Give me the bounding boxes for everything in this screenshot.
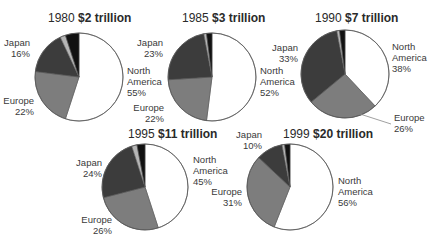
pie-title: 1990 $7 trillion <box>315 11 398 25</box>
label-europe: Europe22% <box>133 102 164 124</box>
label-europe: Europe26% <box>394 112 425 134</box>
label-north-america: NorthAmerica52% <box>260 65 296 98</box>
pie-title: 1985 $3 trillion <box>182 11 265 25</box>
pie-title: 1999 $20 trillion <box>283 127 373 141</box>
pie-1985: 1985 $3 trillionNorthAmerica52%Europe22%… <box>133 11 295 124</box>
label-japan: Japan16% <box>4 37 30 59</box>
label-japan: Japan24% <box>76 157 102 179</box>
label-north-america: NorthAmerica55% <box>127 65 163 98</box>
label-europe: Europe31% <box>211 186 242 208</box>
pie-1995: 1995 $11 trillionNorthAmerica45%Europe26… <box>76 127 228 236</box>
label-europe: Europe22% <box>3 95 34 117</box>
pie-slice-north-america <box>206 33 256 121</box>
pie-title: 1995 $11 trillion <box>128 127 217 141</box>
pie-title: 1980 $2 trillion <box>48 11 131 25</box>
label-japan: Japan10% <box>236 129 262 151</box>
label-japan: Japan23% <box>137 37 163 59</box>
label-north-america: NorthAmerica45% <box>193 154 229 187</box>
pie-slice-europe <box>168 77 212 121</box>
label-europe: Europe26% <box>81 214 112 236</box>
pie-1990: 1990 $7 trillionNorthAmerica38%Europe26%… <box>272 11 427 134</box>
europe-leader-line <box>360 114 391 124</box>
label-north-america: NorthAmerica38% <box>392 41 428 74</box>
label-north-america: NorthAmerica56% <box>338 175 374 208</box>
pie-1999: 1999 $20 trillionNorthAmerica56%Europe31… <box>211 127 373 230</box>
label-japan: Japan33% <box>272 42 298 64</box>
pie-chart-grid: 1980 $2 trillionNorthAmerica55%Europe22%… <box>0 0 430 242</box>
